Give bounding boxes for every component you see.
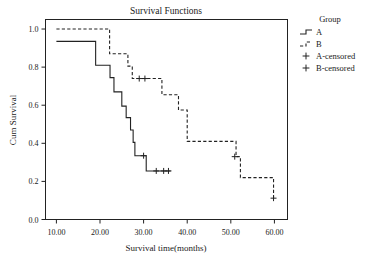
y-tick-label: 0.2 xyxy=(29,177,39,186)
x-tick-label: 40.00 xyxy=(178,228,196,237)
y-tick-label: 0.8 xyxy=(29,63,39,72)
x-tick-label: 30.00 xyxy=(135,228,153,237)
legend-title: Group xyxy=(319,14,341,24)
x-tick-label: 10.00 xyxy=(47,228,65,237)
legend-label: A-censored xyxy=(316,51,356,61)
x-tick-label: 50.00 xyxy=(222,228,240,237)
survival-chart-canvas: Survival Functions 10.0020.0030.0040.005… xyxy=(0,0,378,270)
chart-title: Survival Functions xyxy=(130,6,202,16)
x-axis-label: Survival time(months) xyxy=(125,243,206,253)
y-tick-label: 1.0 xyxy=(29,25,39,34)
y-tick-label: 0.4 xyxy=(29,139,39,148)
legend-label: B-censored xyxy=(316,63,355,73)
legend-label: A xyxy=(316,27,323,37)
x-tick-label: 60.00 xyxy=(265,228,283,237)
y-tick-label: 0.0 xyxy=(29,216,39,225)
legend-label: B xyxy=(316,39,322,49)
y-axis-label: Cum Survival xyxy=(8,94,18,145)
survival-functions-figure: Survival Functions 10.0020.0030.0040.005… xyxy=(0,0,378,270)
y-tick-label: 0.6 xyxy=(29,101,39,110)
x-tick-label: 20.00 xyxy=(91,228,109,237)
